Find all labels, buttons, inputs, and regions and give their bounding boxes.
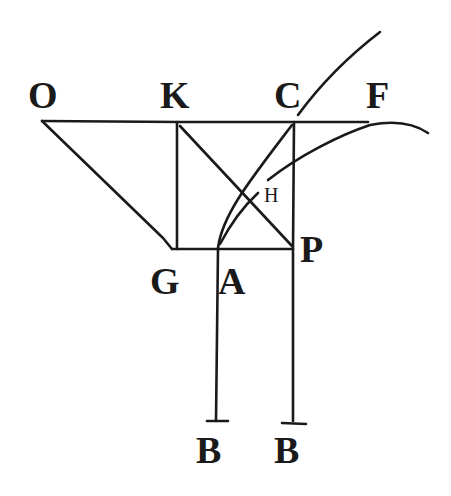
label-K: K: [160, 76, 190, 114]
label-H: H: [264, 185, 278, 205]
label-C: C: [274, 76, 301, 114]
line-CB-vertical: [293, 122, 294, 421]
line-AH: [220, 193, 258, 244]
label-A: A: [218, 262, 245, 300]
label-G: G: [150, 262, 180, 300]
line-OG: [42, 121, 172, 249]
geometric-diagram: O K C F H P G A B B: [0, 0, 451, 496]
curve-H-F: [268, 123, 428, 180]
line-OC: [42, 121, 368, 122]
label-B-left: B: [196, 431, 221, 469]
label-P: P: [300, 230, 323, 268]
label-B-right: B: [274, 431, 299, 469]
label-O: O: [28, 76, 58, 114]
label-F: F: [366, 76, 389, 114]
serif-bar-right: [282, 423, 306, 424]
